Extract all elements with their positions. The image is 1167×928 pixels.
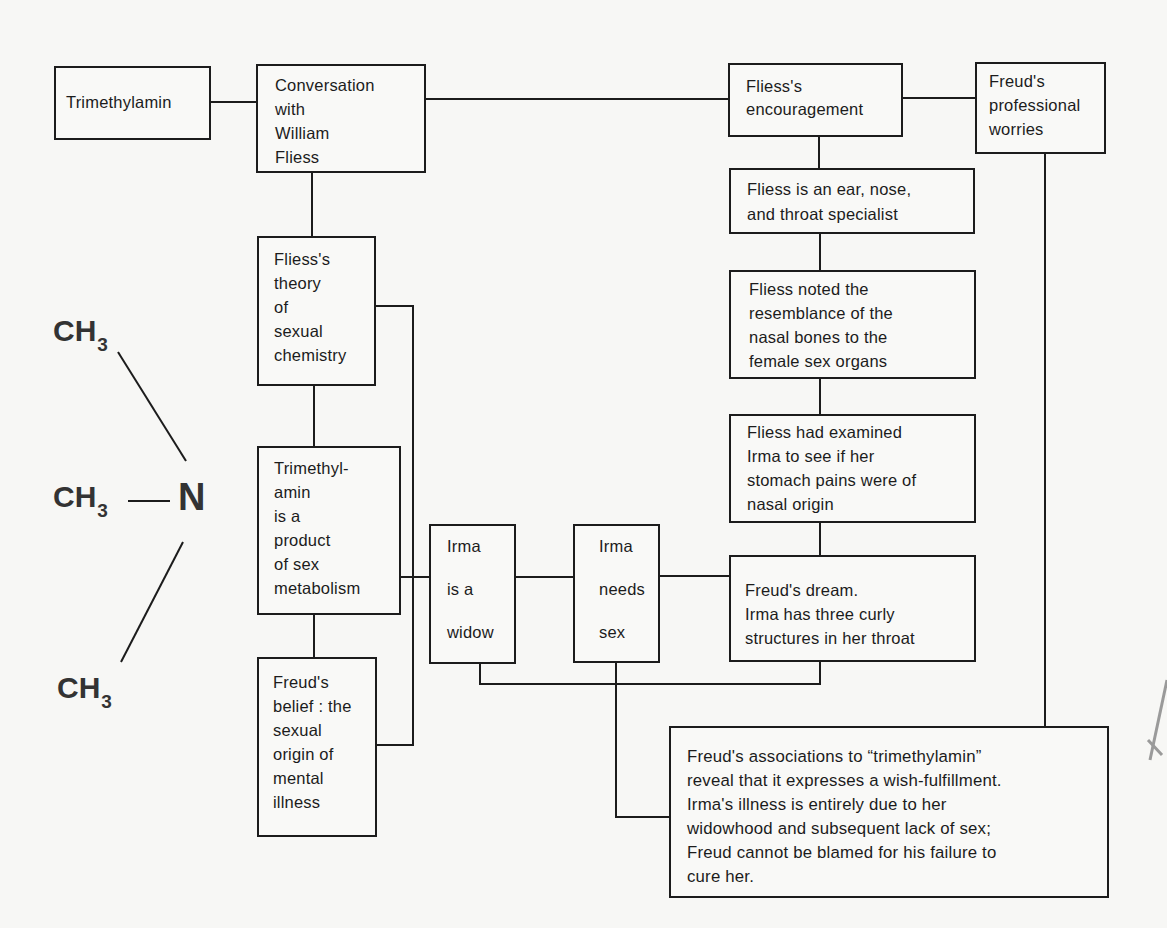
node-freud-professional-worries: Freud's professional worries xyxy=(975,62,1106,154)
node-freud-belief-sexual-origin: Freud's belief : the sexual origin of me… xyxy=(257,657,377,837)
node-conversation-with-fliess: Conversation with William Fliess xyxy=(256,64,426,173)
node-irma-is-widow: Irma is a widow xyxy=(429,524,516,664)
node-fliess-sexual-chemistry-theory: Fliess's theory of sexual chemistry xyxy=(257,236,376,386)
node-trimethylamin-sex-metabolism: Trimethyl- amin is a product of sex meta… xyxy=(257,446,401,615)
node-fliess-examined-irma: Fliess had examined Irma to see if her s… xyxy=(729,414,976,523)
chem-group-bottom: CH3 xyxy=(57,671,112,713)
node-irma-needs-sex: Irma needs sex xyxy=(573,524,660,663)
chem-group-middle: CH3 xyxy=(53,480,108,522)
node-trimethylamin: Trimethylamin xyxy=(54,66,211,140)
pencil-check-mark xyxy=(1148,680,1167,760)
chem-nitrogen-atom: N xyxy=(178,476,205,519)
node-freud-dream: Freud's dream. Irma has three curly stru… xyxy=(729,555,976,662)
node-nasal-bones-resemblance: Fliess noted the resemblance of the nasa… xyxy=(729,270,976,379)
node-fliess-ent-specialist: Fliess is an ear, nose, and throat speci… xyxy=(729,168,975,234)
chem-group-top: CH3 xyxy=(53,314,108,356)
node-fliess-encouragement: Fliess's encouragement xyxy=(728,63,903,137)
node-conclusion-wish-fulfillment: Freud's associations to “trimethylamin” … xyxy=(669,726,1109,898)
